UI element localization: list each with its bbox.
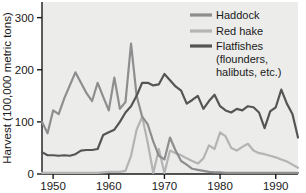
x-axis-ticks [53,174,276,179]
x-tick-label: 1950 [40,180,66,192]
legend-label: Haddock [216,9,260,21]
legend-label: Flatfishes [216,40,264,52]
y-axis-tick-labels: 0100200300 [15,12,34,180]
legend-sublabel-line2: halibuts, etc.) [216,66,281,78]
y-tick-label: 300 [15,12,34,24]
x-tick-label: 1990 [263,180,289,192]
harvest-line-chart: 0100200300 19501960197019801990 Harvest … [0,0,306,193]
x-tick-label: 1970 [152,180,178,192]
x-axis-tick-labels: 19501960197019801990 [40,180,288,192]
legend-sublabel-line1: (flounders, [216,53,268,65]
legend-label: Red hake [216,25,263,37]
chart-canvas: 0100200300 19501960197019801990 Harvest … [0,0,306,193]
y-tick-label: 100 [15,116,34,128]
y-tick-label: 200 [15,64,34,76]
y-axis-ticks [37,18,42,174]
y-tick-label: 0 [28,168,34,180]
x-tick-label: 1960 [96,180,122,192]
x-tick-label: 1980 [207,180,233,192]
y-axis-title: Harvest (100,000 metric tons) [1,12,13,164]
